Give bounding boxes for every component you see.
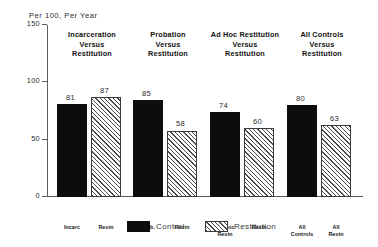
bar-group-title: All ControlsVersusRestitution: [300, 30, 343, 59]
y-axis-tick-label-wrap: 0: [0, 196, 40, 197]
bar-group: ProbationVersusRestitution85Prob.58Restn: [133, 25, 203, 197]
bar-value-label: 87: [100, 86, 109, 95]
y-axis-tick-label-wrap: 100: [0, 81, 40, 82]
bar-restitution[interactable]: [91, 97, 121, 197]
bar-control[interactable]: [210, 112, 240, 197]
bar-group-title-line: All Controls: [300, 30, 343, 40]
bar-value-label: 81: [66, 93, 75, 102]
bar-restitution[interactable]: [321, 125, 351, 197]
y-axis-tick: [42, 196, 47, 197]
bar-value-label: 58: [176, 119, 185, 128]
y-axis-tick-label: 0: [36, 191, 40, 200]
bar-group-title: Ad Hoc RestitutionVersusRestitution: [211, 30, 279, 59]
bar-group-title: IncarcerationVersusRestitution: [68, 30, 116, 59]
bar-group-title-line: Restitution: [68, 49, 116, 59]
bar-control[interactable]: [133, 100, 163, 197]
bar-group: All ControlsVersusRestitution80AllContro…: [287, 25, 357, 197]
legend-swatch-restitution: [205, 221, 228, 232]
bar-restitution[interactable]: [167, 131, 197, 198]
bar-value-label: 60: [253, 117, 262, 126]
bar-group: IncarcerationVersusRestitution81Incarc87…: [57, 25, 127, 197]
legend-swatch-control: [127, 221, 150, 232]
y-axis-tick-label: 150: [27, 19, 40, 28]
bar-value-label: 80: [296, 94, 305, 103]
bar-group-title-line: Restitution: [211, 49, 279, 59]
bar-group-title-line: Incarceration: [68, 30, 116, 40]
legend-label: Control: [156, 222, 185, 231]
chart-legend: ControlRestitution: [0, 220, 378, 240]
y-axis-tick-label-wrap: 50: [0, 139, 40, 140]
bar-group: Ad Hoc RestitutionVersusRestitution74Ad …: [210, 25, 280, 197]
y-axis-tick: [42, 24, 47, 25]
bar-control[interactable]: [287, 105, 317, 197]
bar-group-title: ProbationVersusRestitution: [148, 30, 188, 59]
y-axis-tick-label: 100: [27, 76, 40, 85]
bar-group-title-line: Restitution: [300, 49, 343, 59]
bar-group-title-line: Versus: [300, 40, 343, 50]
bar-group-title-line: Probation: [148, 30, 188, 40]
legend-label: Restitution: [234, 222, 276, 231]
y-axis-tick-label-wrap: 150: [0, 24, 40, 25]
bar-group-title-line: Versus: [148, 40, 188, 50]
y-axis-tick-label: 50: [31, 134, 40, 143]
bar-value-label: 74: [219, 101, 228, 110]
y-axis-line: [47, 25, 48, 197]
bar-value-label: 85: [142, 89, 151, 98]
bar-group-title-line: Versus: [68, 40, 116, 50]
bar-group-title-line: Ad Hoc Restitution: [211, 30, 279, 40]
bar-chart: Per 100, Per Year 150100500 Incarceratio…: [0, 0, 378, 247]
bar-value-label: 63: [330, 114, 339, 123]
bar-control[interactable]: [57, 104, 87, 197]
bar-group-title-line: Restitution: [148, 49, 188, 59]
bar-group-title-line: Versus: [211, 40, 279, 50]
y-axis-tick: [42, 139, 47, 140]
y-axis-tick: [42, 81, 47, 82]
bar-restitution[interactable]: [244, 128, 274, 197]
